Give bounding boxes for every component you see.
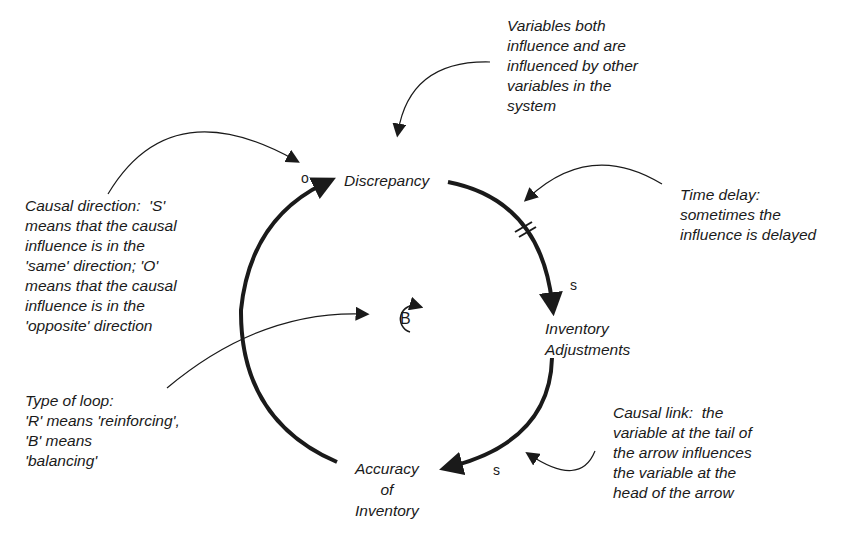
- annotation-loop-type: Type of loop: 'R' means 'reinforcing', '…: [25, 391, 180, 471]
- variable-accuracy-of-inventory: Accuracy of Inventory: [355, 458, 419, 521]
- loop-type-label: B: [400, 310, 411, 328]
- annotation-time-delay: Time delay: sometimes the influence is d…: [680, 185, 816, 245]
- annotation-arrow-loop-type: [167, 314, 364, 388]
- annotation-causal-direction: Causal direction: 'S' means that the cau…: [25, 196, 177, 336]
- annotation-arrow-time-delay: [528, 165, 662, 198]
- variable-discrepancy: Discrepancy: [344, 170, 429, 191]
- link-accuracy-to-discrepancy: [241, 184, 337, 462]
- annotation-arrow-causal-link: [530, 451, 595, 471]
- polarity-label-s-adjustments: s: [570, 277, 577, 293]
- annotation-arrow-causal-direction: [108, 132, 295, 194]
- annotation-variables: Variables both influence and are influen…: [507, 16, 638, 116]
- variable-inventory-adjustments: Inventory Adjustments: [545, 318, 630, 360]
- annotation-causal-link: Causal link: the variable at the tail of…: [613, 403, 752, 503]
- link-inventory-adjustments-to-accuracy: [453, 358, 552, 466]
- link-discrepancy-to-inventory-adjustments: [448, 182, 552, 302]
- polarity-label-s-accuracy: s: [493, 462, 500, 478]
- polarity-label-o: o: [301, 170, 309, 186]
- annotation-arrow-variables: [398, 62, 490, 132]
